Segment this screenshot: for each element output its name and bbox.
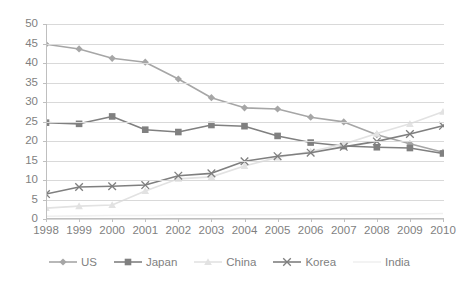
x-axis-tick (377, 219, 378, 222)
y-axis-label: 20 (4, 135, 38, 147)
y-axis-label: 35 (4, 77, 38, 89)
data-point-diamond (307, 114, 314, 121)
x-axis-tick (278, 219, 279, 222)
data-point-triangle (439, 108, 444, 115)
gridline (46, 200, 444, 201)
gridline (46, 141, 444, 142)
x-axis-labels: 1998199920002001200220032004200520062007… (46, 224, 444, 240)
x-axis-tick (46, 219, 47, 222)
y-axis-label: 50 (4, 18, 38, 30)
legend-swatch-square-icon (113, 256, 143, 268)
legend-swatch-x-icon (272, 256, 302, 268)
data-point-square (440, 150, 444, 157)
line-chart: 05101520253035404550 1998199920002001200… (0, 0, 458, 281)
y-axis-label: 5 (4, 194, 38, 206)
y-axis-label: 10 (4, 174, 38, 186)
gridline (46, 122, 444, 123)
legend-swatch-diamond-icon (48, 256, 78, 268)
legend-item-china[interactable]: China (193, 256, 256, 268)
series-us (46, 41, 444, 156)
plot-area (46, 24, 444, 219)
data-point-diamond (75, 45, 82, 52)
data-point-diamond (109, 55, 116, 62)
gridline (46, 63, 444, 64)
x-axis-tick (410, 219, 411, 222)
series-line (46, 44, 443, 152)
legend-item-japan[interactable]: Japan (113, 256, 177, 268)
data-point-square (274, 133, 281, 140)
series-japan (46, 113, 444, 157)
x-axis-tick (344, 219, 345, 222)
legend-swatch-triangle-icon (193, 256, 223, 268)
x-axis-tick (245, 219, 246, 222)
x-axis-tick (443, 219, 444, 222)
data-point-square (241, 123, 248, 130)
x-axis-tick (145, 219, 146, 222)
legend-item-korea[interactable]: Korea (272, 256, 336, 268)
y-axis-label: 30 (4, 96, 38, 108)
data-point-square (374, 144, 381, 151)
data-point-square (142, 126, 149, 133)
gridline (46, 24, 444, 25)
gridline (46, 180, 444, 181)
series-india (46, 214, 443, 217)
data-point-diamond (175, 75, 182, 82)
data-point-square (109, 113, 116, 120)
data-point-square (208, 122, 215, 129)
x-axis-tick (311, 219, 312, 222)
gridline (46, 161, 444, 162)
data-point-diamond (274, 105, 281, 112)
y-axis-label: 45 (4, 38, 38, 50)
legend-label: India (385, 256, 410, 268)
legend-swatch-none-icon (352, 256, 382, 268)
legend-label: Japan (146, 256, 177, 268)
legend-item-india[interactable]: India (352, 256, 410, 268)
chart-legend: USJapanChinaKoreaIndia (0, 252, 458, 272)
legend-label: Korea (305, 256, 336, 268)
data-point-square (175, 129, 182, 136)
data-point-square (125, 259, 132, 266)
series-line (46, 214, 443, 217)
legend-item-us[interactable]: US (48, 256, 97, 268)
y-axis-label: 40 (4, 57, 38, 69)
x-axis-label: 2010 (423, 224, 458, 236)
y-axis-label: 25 (4, 116, 38, 128)
y-axis-label: 15 (4, 155, 38, 167)
x-axis-tick (112, 219, 113, 222)
gridline (46, 44, 444, 45)
legend-label: China (226, 256, 256, 268)
y-axis-line (46, 24, 47, 219)
x-axis-tick (211, 219, 212, 222)
gridline (46, 83, 444, 84)
legend-label: US (81, 256, 97, 268)
x-axis-tick (178, 219, 179, 222)
x-axis-tick (79, 219, 80, 222)
data-point-diamond (241, 104, 248, 111)
gridline (46, 102, 444, 103)
data-point-diamond (59, 258, 66, 265)
data-point-square (407, 145, 414, 152)
y-axis-label: 0 (4, 213, 38, 225)
data-point-diamond (208, 94, 215, 101)
